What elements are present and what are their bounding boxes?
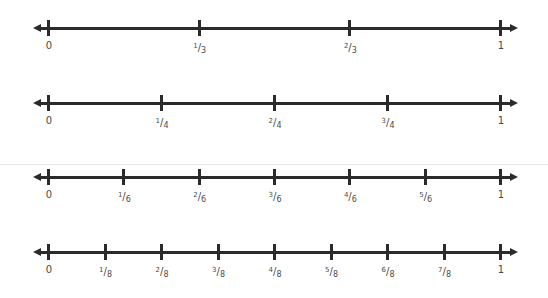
tick-mark — [443, 244, 446, 260]
tick-label: 3/6 — [255, 189, 295, 206]
tick-label: 3/4 — [368, 115, 408, 132]
tick-mark — [160, 95, 163, 111]
tick-mark — [273, 95, 276, 111]
tick-label: 5/8 — [312, 264, 352, 281]
tick-label: 4/6 — [330, 189, 370, 206]
tick-label: 3/8 — [199, 264, 239, 281]
tick-mark — [499, 244, 502, 260]
tick-label: 1/8 — [86, 264, 126, 281]
tick-label: 0 — [29, 189, 69, 201]
tick-label: 1 — [481, 264, 521, 276]
number-line-8ths: 01/82/83/84/85/86/87/81 — [0, 0, 548, 60]
tick-mark — [330, 244, 333, 260]
tick-mark — [273, 244, 276, 260]
tick-label: 6/8 — [368, 264, 408, 281]
tick-label: 2/8 — [142, 264, 182, 281]
arrow-left-icon — [33, 248, 41, 256]
tick-label: 5/6 — [406, 189, 446, 206]
tick-label: 2/4 — [255, 115, 295, 132]
tick-mark — [273, 169, 276, 185]
tick-mark — [104, 244, 107, 260]
tick-mark — [348, 169, 351, 185]
arrow-left-icon — [33, 173, 41, 181]
tick-mark — [160, 244, 163, 260]
tick-label: 1/6 — [104, 189, 144, 206]
tick-mark — [424, 169, 427, 185]
tick-mark — [47, 169, 50, 185]
arrow-right-icon — [510, 173, 518, 181]
tick-label: 1 — [481, 115, 521, 127]
tick-label: 0 — [29, 115, 69, 127]
tick-label: 0 — [29, 264, 69, 276]
tick-mark — [47, 244, 50, 260]
tick-label: 4/8 — [255, 264, 295, 281]
tick-label: 1 — [481, 189, 521, 201]
tick-label: 2/6 — [180, 189, 220, 206]
tick-mark — [47, 95, 50, 111]
tick-mark — [122, 169, 125, 185]
tick-label: 7/8 — [425, 264, 465, 281]
tick-label: 1/4 — [142, 115, 182, 132]
arrow-right-icon — [510, 99, 518, 107]
tick-mark — [217, 244, 220, 260]
tick-mark — [198, 169, 201, 185]
tick-mark — [499, 95, 502, 111]
arrow-left-icon — [33, 99, 41, 107]
tick-mark — [499, 169, 502, 185]
arrow-right-icon — [510, 248, 518, 256]
divider — [0, 164, 548, 165]
number-lines-diagram: 01/32/3101/42/43/4101/62/63/64/65/6101/8… — [0, 0, 548, 298]
tick-mark — [386, 95, 389, 111]
tick-mark — [386, 244, 389, 260]
